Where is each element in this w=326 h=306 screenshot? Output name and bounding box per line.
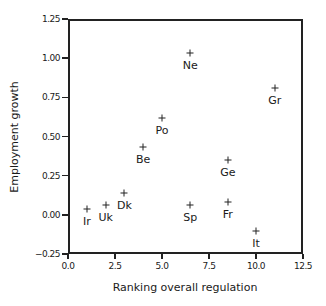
point-label: Be: [136, 153, 150, 166]
x-axis-title: Ranking overall regulation: [113, 281, 258, 294]
x-tick: [161, 254, 163, 259]
y-tick: [62, 18, 68, 20]
x-tick-label: 2.5: [109, 261, 122, 271]
x-tick-label: 5.0: [156, 261, 169, 271]
point-label: Ge: [220, 166, 235, 179]
plus-marker-icon: [83, 205, 90, 212]
x-tick: [255, 254, 257, 259]
y-tick-label: 0.75: [42, 92, 60, 102]
point-label: Sp: [183, 211, 197, 224]
scatter-chart: 1.251.000.750.500.250.00−0.250.02.55.07.…: [0, 0, 326, 306]
x-tick-label: 10.0: [247, 261, 265, 271]
point-label: Dk: [117, 199, 132, 212]
plus-marker-icon: [159, 114, 166, 121]
plus-marker-icon: [224, 199, 231, 206]
x-tick: [208, 254, 210, 259]
point-label: Ne: [183, 59, 198, 72]
y-tick-label: 0.25: [42, 171, 60, 181]
x-tick: [114, 254, 116, 259]
y-axis-title: Employment growth: [8, 81, 21, 192]
x-tick: [302, 254, 304, 259]
x-tick-label: 0.0: [62, 261, 75, 271]
y-tick: [62, 214, 68, 216]
x-tick-label: 7.5: [203, 261, 216, 271]
point-label: It: [252, 237, 260, 250]
y-tick: [62, 136, 68, 138]
plus-marker-icon: [253, 227, 260, 234]
plus-marker-icon: [121, 189, 128, 196]
plus-marker-icon: [140, 144, 147, 151]
point-label: Uk: [98, 211, 112, 224]
x-tick-label: 12.5: [294, 261, 312, 271]
y-tick: [62, 57, 68, 59]
point-label: Po: [156, 124, 169, 137]
plus-marker-icon: [102, 202, 109, 209]
y-tick-label: 1.25: [42, 14, 60, 24]
y-tick: [62, 97, 68, 99]
plus-marker-icon: [187, 202, 194, 209]
plus-marker-icon: [187, 50, 194, 57]
y-tick-label: −0.25: [35, 249, 60, 259]
plus-marker-icon: [271, 84, 278, 91]
y-tick-label: 1.00: [42, 53, 60, 63]
point-label: Fr: [223, 208, 233, 221]
point-label: Gr: [268, 94, 281, 107]
point-label: Ir: [83, 215, 91, 228]
x-tick: [67, 254, 69, 259]
y-tick: [62, 175, 68, 177]
y-tick-label: 0.50: [42, 132, 60, 142]
plus-marker-icon: [224, 157, 231, 164]
y-tick-label: 0.00: [42, 210, 60, 220]
